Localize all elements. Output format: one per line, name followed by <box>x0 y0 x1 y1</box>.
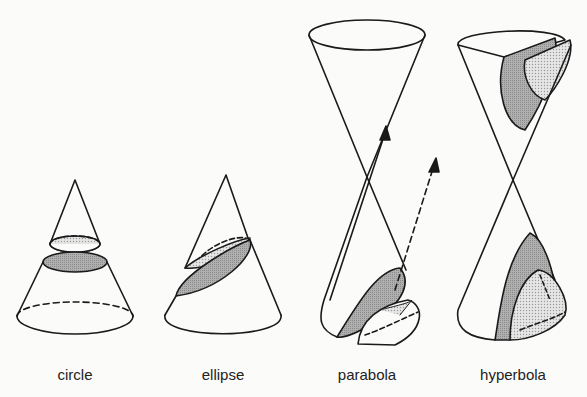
label-hyperbola: hyperbola <box>480 366 546 383</box>
hyperbola-cone <box>458 31 571 340</box>
label-parabola: parabola <box>338 366 396 383</box>
label-circle: circle <box>57 366 92 383</box>
conic-sections-diagram <box>0 0 587 397</box>
parabola-cone <box>309 20 439 345</box>
ellipse-cone <box>165 175 281 334</box>
circle-cone <box>17 180 133 334</box>
label-ellipse: ellipse <box>202 366 245 383</box>
